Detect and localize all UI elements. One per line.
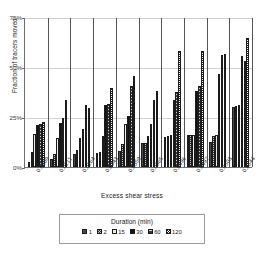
legend-items: 12153060120: [60, 229, 204, 235]
legend-label: 60: [154, 229, 160, 235]
legend-label: 1: [89, 229, 92, 235]
bar: [201, 51, 204, 167]
legend-swatch: [82, 229, 87, 234]
y-axis-tick-labels: 0%25%50%75%: [0, 0, 22, 200]
bar: [224, 54, 227, 167]
legend-swatch: [166, 229, 171, 234]
legend-label: 120: [172, 229, 182, 235]
legend-swatch: [148, 229, 153, 234]
plot-wrapper: Fraction of tracers moved 0%25%50%75% 0.…: [0, 0, 264, 200]
legend-item[interactable]: 15: [112, 229, 125, 235]
legend-item[interactable]: 1: [82, 229, 92, 235]
legend-item[interactable]: 2: [97, 229, 107, 235]
legend-item[interactable]: 60: [148, 229, 161, 235]
y-tick-label: 50%: [0, 65, 22, 71]
bar-group: [70, 18, 93, 167]
bar-groups: [25, 18, 252, 167]
bar-group: [207, 18, 230, 167]
bar: [246, 38, 249, 167]
group-separator: [252, 18, 253, 167]
bar: [110, 88, 113, 167]
bar-group: [25, 18, 48, 167]
legend-swatch: [112, 229, 117, 234]
legend-label: 15: [118, 229, 124, 235]
legend-item[interactable]: 120: [166, 229, 182, 235]
bar-group: [161, 18, 184, 167]
bar-group: [139, 18, 162, 167]
legend: Duration (min) 12153060120: [59, 214, 205, 244]
bar-group: [93, 18, 116, 167]
bar-group: [229, 18, 252, 167]
legend-swatch: [97, 229, 102, 234]
y-tick-label: 75%: [0, 15, 22, 21]
bar: [133, 76, 136, 167]
y-tick-label: 25%: [0, 115, 22, 121]
legend-label: 30: [136, 229, 142, 235]
legend-label: 2: [103, 229, 106, 235]
bar-group: [48, 18, 71, 167]
legend-title: Duration (min): [60, 218, 204, 225]
bar-group: [184, 18, 207, 167]
y-tick-label: 0%: [0, 165, 22, 171]
plot-area: [24, 18, 252, 168]
bar-group: [116, 18, 139, 167]
x-axis-title: Excess shear stress: [0, 192, 264, 199]
legend-swatch: [130, 229, 135, 234]
bar: [178, 51, 181, 167]
chart-container: Fraction of tracers moved 0%25%50%75% 0.…: [0, 0, 264, 253]
legend-item[interactable]: 30: [130, 229, 143, 235]
